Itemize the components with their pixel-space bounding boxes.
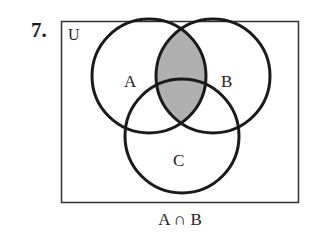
venn-diagram: U A B C <box>0 0 314 233</box>
set-c-label: C <box>173 151 184 170</box>
set-a-label: A <box>124 72 137 91</box>
caption: A ∩ B <box>0 210 314 230</box>
universe-label: U <box>68 26 80 43</box>
set-b-label: B <box>221 72 232 91</box>
